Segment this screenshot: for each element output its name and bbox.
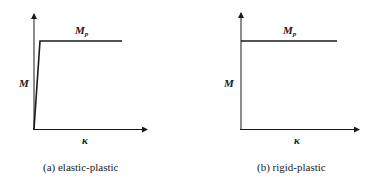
y-axis-label-a: M	[19, 78, 29, 89]
caption-b: (b) rigid-plastic	[257, 162, 326, 173]
y-axis-label-b: M	[224, 78, 234, 89]
moment-curvature-diagrams	[0, 0, 372, 185]
x-axis-label-b: κ	[294, 135, 300, 146]
plateau-label-b: Mp	[283, 25, 296, 38]
figure-b-rigid-plastic	[240, 13, 359, 130]
x-axis-label-a: κ	[82, 135, 88, 146]
figure-a-elastic-plastic	[33, 14, 147, 130]
caption-a: (a) elastic-plastic	[43, 162, 118, 173]
elastic-plastic-curve	[34, 41, 122, 129]
plateau-label-a: Mp	[75, 25, 88, 38]
